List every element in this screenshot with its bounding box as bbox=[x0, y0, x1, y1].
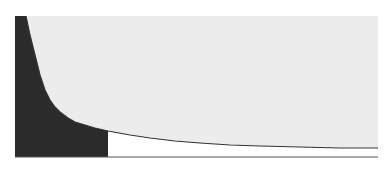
decay-curve-diagram bbox=[0, 0, 387, 170]
